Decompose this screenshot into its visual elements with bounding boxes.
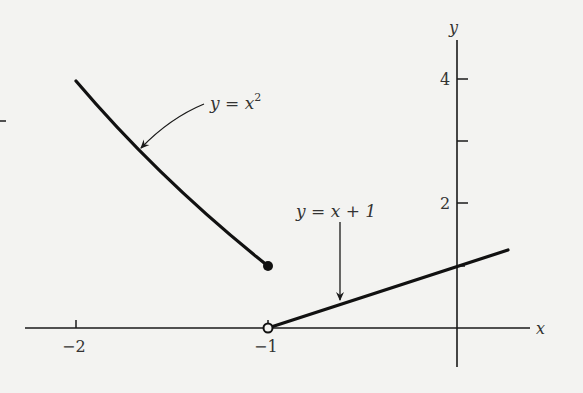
y-tick-label-2: 2 bbox=[440, 194, 450, 213]
piecewise-function-graph: y x −2 −1 4 2 y = x2 y = x + 1 bbox=[0, 0, 583, 393]
y-axis-label: y bbox=[448, 18, 459, 37]
y-tick-label-4: 4 bbox=[440, 70, 450, 89]
open-endpoint-circle bbox=[264, 324, 273, 333]
closed-endpoint-dot bbox=[263, 261, 273, 271]
x-axis-label: x bbox=[536, 319, 545, 338]
x-tick-label-neg1: −1 bbox=[254, 337, 278, 356]
parabola-label: y = x2 bbox=[209, 91, 261, 113]
line-label: y = x + 1 bbox=[295, 201, 376, 221]
arrow-to-parabola-icon bbox=[141, 104, 204, 148]
line-y-equals-x-plus-1 bbox=[268, 250, 508, 328]
x-tick-label-neg2: −2 bbox=[62, 337, 86, 356]
